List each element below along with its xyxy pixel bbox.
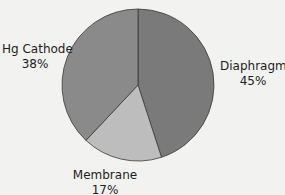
label-name: Hg Cathode <box>2 42 68 57</box>
label-value: 17% <box>72 183 138 195</box>
label-name: Diaphragm <box>220 59 285 74</box>
label-value: 45% <box>220 74 285 89</box>
label-name: Membrane <box>72 168 138 183</box>
label-diaphragm: Diaphragm 45% <box>220 59 285 89</box>
pie-chart <box>0 0 285 195</box>
label-value: 38% <box>2 57 68 72</box>
label-membrane: Membrane 17% <box>72 168 138 195</box>
label-hg-cathode: Hg Cathode 38% <box>2 42 68 72</box>
